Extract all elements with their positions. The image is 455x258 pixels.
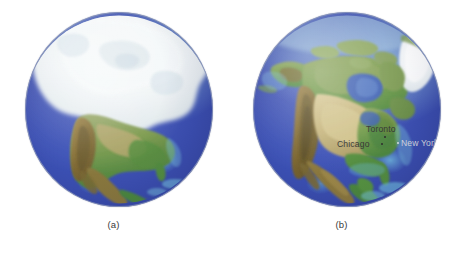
figure-globe-pair: (a) bbox=[0, 0, 455, 258]
caption-b: (b) bbox=[228, 219, 455, 230]
caption-a: (a) bbox=[0, 219, 227, 230]
globe-b: Chicago Toronto New York bbox=[253, 12, 441, 207]
landmass-layer-present-day bbox=[253, 12, 441, 207]
panel-b: Chicago Toronto New York (b) bbox=[228, 0, 455, 258]
globe-a-sphere bbox=[25, 12, 213, 207]
landmass-layer-ice-age bbox=[25, 12, 213, 207]
globe-b-sphere: Chicago Toronto New York bbox=[253, 12, 441, 207]
globe-a bbox=[25, 12, 213, 207]
panel-a: (a) bbox=[0, 0, 227, 258]
